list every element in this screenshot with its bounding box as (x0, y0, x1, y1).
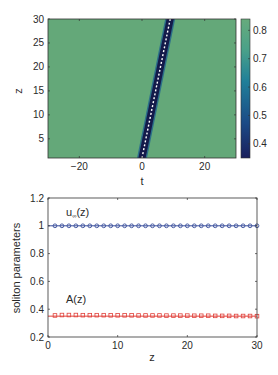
colorbar-tick-label: 0.7 (253, 53, 267, 64)
y-tick-label: 0.4 (30, 304, 44, 315)
x-tick-label: 0 (45, 340, 51, 351)
colorbar-tick-label: 0.6 (253, 82, 267, 93)
x-tick-label: 20 (182, 340, 194, 351)
y-tick-label: 1 (38, 220, 44, 231)
x-tick-label: −20 (71, 161, 88, 172)
y-tick-label: 25 (33, 37, 45, 48)
x-tick-label: 0 (139, 161, 145, 172)
x-tick-label: 30 (251, 340, 263, 351)
x-tick-label: 20 (199, 161, 211, 172)
y-tick-label: 0.8 (30, 248, 44, 259)
y-tick-label: 15 (33, 85, 45, 96)
heatmap-xlabel: t (140, 175, 143, 187)
colorbar-ticks: 0.40.50.60.70.8 (248, 25, 267, 149)
colorbar: 0.40.50.60.70.8 (241, 19, 267, 158)
heatmap-ylabel: z (12, 88, 24, 94)
y-tick-label: 20 (33, 61, 45, 72)
line-plot-xlabel: z (149, 351, 155, 363)
a-annotation: A(z) (66, 293, 86, 305)
y-tick-label: 0.6 (30, 276, 44, 287)
y-tick-label: 30 (33, 14, 45, 25)
y-tick-label: 0.2 (30, 332, 44, 343)
colorbar-tick-label: 0.4 (253, 138, 267, 149)
y-tick-label: 10 (33, 109, 45, 120)
line-plot-ylabel: soliton parameters (10, 222, 22, 313)
colorbar-tick-label: 0.5 (253, 110, 267, 121)
u-inf-annotation: u∞(z) (66, 206, 89, 219)
y-tick-label: 1.2 (30, 193, 44, 204)
y-tick-label: 5 (38, 133, 44, 144)
colorbar-tick-label: 0.8 (253, 25, 267, 36)
soliton-parameters-plot: 01020300.20.40.60.811.2 u∞(z) A(z) z sol… (10, 193, 263, 364)
colorbar-gradient (241, 19, 250, 158)
heatmap-plot: −2002051015202530 t z (12, 14, 236, 188)
x-tick-label: 10 (112, 340, 124, 351)
figure: −2002051015202530 t z 0.40.50.60.70.8 01… (0, 0, 278, 375)
